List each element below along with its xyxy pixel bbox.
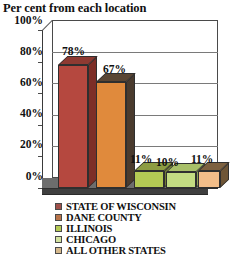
bar-front-face bbox=[96, 82, 126, 188]
legend-swatch-icon bbox=[55, 236, 62, 243]
y-tick-label-60: 60% bbox=[20, 76, 43, 88]
y-axis-line bbox=[42, 30, 43, 188]
bar-front-face bbox=[58, 65, 88, 188]
legend-item-state-of-wisconsin[interactable]: STATE OF WISCONSIN bbox=[55, 201, 176, 212]
legend-swatch-icon bbox=[55, 225, 62, 232]
bar-dane-county[interactable] bbox=[96, 18, 126, 188]
y-tick-label-40: 40% bbox=[20, 107, 43, 119]
legend-item-chicago[interactable]: CHICAGO bbox=[55, 234, 176, 245]
y-tick-label-80: 80% bbox=[20, 45, 43, 57]
legend-swatch-icon bbox=[55, 203, 62, 210]
legend-item-dane-county[interactable]: DANE COUNTY bbox=[55, 212, 176, 223]
legend-item-label: STATE OF WISCONSIN bbox=[66, 201, 176, 212]
bar-front-face bbox=[166, 172, 196, 188]
bar-state-of-wisconsin[interactable] bbox=[58, 18, 88, 188]
data-label-state-of-wisconsin: 78% bbox=[62, 45, 85, 57]
legend-item-label: CHICAGO bbox=[66, 234, 116, 245]
axis-connector-top bbox=[42, 20, 53, 31]
legend-item-illinois[interactable]: ILLINOIS bbox=[55, 223, 176, 234]
floor-edge-line bbox=[42, 188, 218, 189]
floor-front-face bbox=[42, 188, 208, 195]
chart-legend: STATE OF WISCONSIN DANE COUNTY ILLINOIS … bbox=[55, 201, 176, 256]
legend-item-label: DANE COUNTY bbox=[66, 212, 142, 223]
y-tick-label-100: 100% bbox=[14, 14, 43, 26]
legend-swatch-icon bbox=[55, 247, 62, 254]
bar-front-face bbox=[198, 171, 220, 188]
data-label-chicago: 10% bbox=[156, 156, 179, 168]
legend-item-label: ALL OTHER STATES bbox=[66, 245, 166, 256]
y-tick-40 bbox=[38, 125, 42, 126]
legend-item-all-other-states[interactable]: ALL OTHER STATES bbox=[55, 245, 176, 256]
y-tick-20 bbox=[38, 156, 42, 157]
y-tick-100 bbox=[38, 30, 42, 31]
y-tick-label-20: 20% bbox=[20, 138, 43, 150]
plot-area: 100% 80% 60% 40% 20% 0% bbox=[0, 18, 239, 200]
y-tick-80 bbox=[38, 62, 42, 63]
y-tick-60 bbox=[38, 93, 42, 94]
data-label-dane-county: 67% bbox=[103, 63, 126, 75]
bar-chart: Per cent from each location 100% 80% 60%… bbox=[0, 0, 239, 266]
data-label-all-other-states: 11% bbox=[191, 153, 213, 165]
bar-front-face bbox=[134, 171, 164, 188]
legend-swatch-icon bbox=[55, 214, 62, 221]
data-label-illinois: 11% bbox=[130, 153, 152, 165]
y-tick-label-0: 0% bbox=[26, 170, 43, 182]
legend-item-label: ILLINOIS bbox=[66, 223, 112, 234]
